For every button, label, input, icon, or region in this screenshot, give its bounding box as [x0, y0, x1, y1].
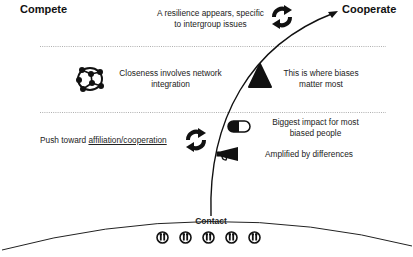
- closeness-line2: integration: [113, 79, 228, 90]
- resilience-text: A resilience appears, specific to interg…: [148, 8, 273, 29]
- push-prefix: Push toward: [40, 135, 88, 145]
- progress-arrow: [211, 13, 334, 216]
- person-pair-icon: [248, 231, 261, 244]
- biases-text: This is where biases matter most: [271, 68, 371, 89]
- resilience-line2: to intergroup issues: [148, 19, 273, 30]
- impact-line2: biased people: [258, 128, 373, 139]
- cycle-arrows-icon: [269, 4, 295, 30]
- cycle-arrows-icon: [183, 127, 209, 153]
- biggest-impact-text: Biggest impact for most biased people: [258, 117, 373, 138]
- closeness-line1: Closeness involves network: [113, 68, 228, 79]
- cooperate-label: Cooperate: [342, 3, 396, 15]
- person-pair-icon: [179, 231, 192, 244]
- person-pair-icon: [156, 231, 169, 244]
- network-icon: [75, 64, 105, 94]
- compete-label: Compete: [20, 3, 67, 15]
- affiliation-underlined: affiliation/cooperation: [88, 135, 166, 145]
- biases-line2: matter most: [271, 79, 371, 90]
- warning-triangle-icon: [247, 62, 273, 90]
- push-text: Push toward affiliation/cooperation: [40, 135, 167, 146]
- pill-toggle-icon: [227, 120, 251, 133]
- contact-icons: [156, 231, 261, 244]
- impact-line1: Biggest impact for most: [258, 117, 373, 128]
- biases-line1: This is where biases: [271, 68, 371, 79]
- contact-label: Contact: [181, 216, 241, 227]
- amplified-text: Amplified by differences: [265, 149, 353, 160]
- person-pair-icon: [202, 231, 215, 244]
- closeness-text: Closeness involves network integration: [113, 68, 228, 89]
- person-pair-icon: [225, 231, 238, 244]
- resilience-line1: A resilience appears, specific: [148, 8, 273, 19]
- megaphone-icon: [216, 146, 242, 162]
